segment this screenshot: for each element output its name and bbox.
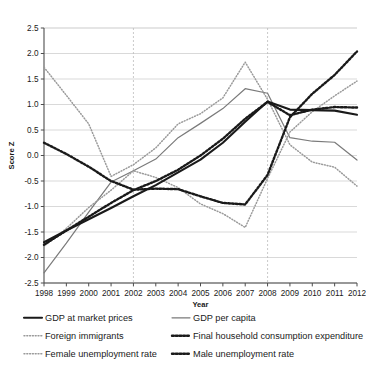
legend-label: Final household consumption expenditure: [193, 331, 363, 341]
y-tick-label: -1.5: [24, 228, 39, 237]
x-axis-title: Year: [192, 300, 208, 309]
x-tick-label: 2012: [348, 289, 366, 298]
chart-container: 2.52.01.51.00.50.0-0.5-1.0-1.5-2.0-2.5 1…: [0, 0, 366, 370]
y-axis-title: Score Z: [7, 141, 16, 169]
legend-label: Foreign immigrants: [45, 331, 124, 341]
y-tick-label: 1.0: [27, 100, 39, 109]
legend-item-final-household-consumption-expenditure[interactable]: Final household consumption expenditure: [172, 331, 363, 341]
x-tick-label: 1999: [57, 289, 76, 298]
y-tick-label: 0.0: [27, 151, 39, 160]
legend-label: GDP at market prices: [45, 313, 133, 323]
x-tick-label: 1998: [35, 289, 54, 298]
x-tick-label: 2005: [191, 289, 210, 298]
y-tick-label: 2.5: [27, 24, 39, 33]
y-tick-label: 0.5: [27, 126, 39, 135]
line-chart: 2.52.01.51.00.50.0-0.5-1.0-1.5-2.0-2.5 1…: [0, 0, 366, 370]
x-tick-label: 2002: [124, 289, 143, 298]
x-tick-label: 2007: [236, 289, 255, 298]
x-tick-label: 2006: [214, 289, 233, 298]
y-tick-label: -0.5: [24, 177, 39, 186]
y-tick-label: -1.0: [24, 202, 39, 211]
legend-label: GDP per capita: [193, 313, 257, 323]
x-tick-label: 2001: [102, 289, 121, 298]
y-tick-label: -2.0: [24, 253, 39, 262]
x-tick-label: 2003: [147, 289, 166, 298]
y-tick-label: 1.5: [27, 75, 39, 84]
x-tick-label: 2000: [80, 289, 99, 298]
legend-label: Male unemployment rate: [193, 349, 294, 359]
x-tick-label: 2010: [303, 289, 322, 298]
x-tick-label: 2009: [281, 289, 300, 298]
x-tick-label: 2004: [169, 289, 188, 298]
y-tick-label: -2.5: [24, 279, 39, 288]
x-tick-label: 2011: [326, 289, 344, 298]
legend-label: Female unemployment rate: [45, 349, 157, 359]
y-tick-label: 2.0: [27, 49, 39, 58]
x-tick-label: 2008: [258, 289, 277, 298]
